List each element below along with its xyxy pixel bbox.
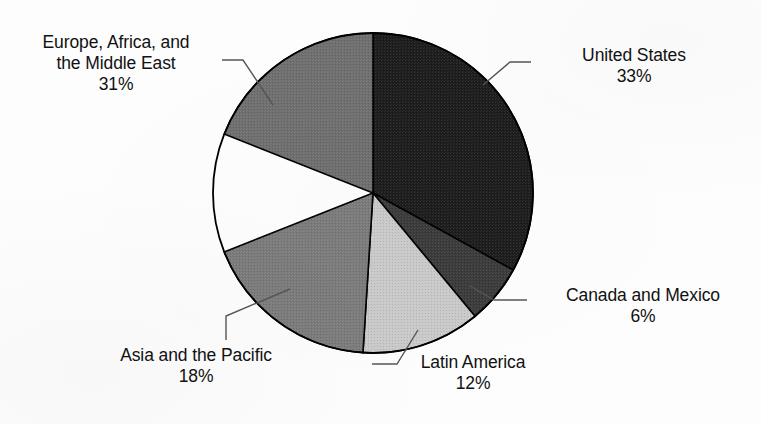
pie-label-canada-and-mexico-percent: 6%	[530, 306, 756, 327]
pie-slices	[213, 33, 533, 353]
pie-label-asia-and-the-pacific: Asia and the Pacific 18%	[92, 345, 300, 387]
pie-label-canada-and-mexico: Canada and Mexico 6%	[530, 285, 756, 327]
pie-label-europe-africa-middle-east-line1: Europe, Africa, and	[43, 32, 190, 52]
pie-label-canada-and-mexico-line1: Canada and Mexico	[566, 285, 720, 305]
pie-label-latin-america-percent: 12%	[375, 373, 571, 394]
pie-chart-figure: Europe, Africa, and the Middle East 31% …	[0, 0, 761, 424]
pie-slice-europe-africa-middle-east-texture	[224, 33, 373, 193]
pie-label-asia-and-the-pacific-line1: Asia and the Pacific	[120, 345, 272, 365]
pie-label-asia-and-the-pacific-percent: 18%	[92, 366, 300, 387]
pie-label-latin-america-line1: Latin America	[421, 352, 526, 372]
pie-label-europe-africa-middle-east-line2: the Middle East	[56, 53, 175, 73]
pie-label-united-states-line1: United States	[582, 45, 686, 65]
pie-label-europe-africa-middle-east-percent: 31%	[18, 74, 214, 95]
leader-line-united-states	[483, 62, 531, 85]
pie-slice-asia-and-the-pacific-texture	[224, 193, 373, 353]
pie-label-united-states: United States 33%	[534, 45, 734, 87]
pie-label-europe-africa-middle-east: Europe, Africa, and the Middle East 31%	[18, 32, 214, 95]
pie-label-latin-america: Latin America 12%	[375, 352, 571, 394]
pie-label-united-states-percent: 33%	[534, 66, 734, 87]
